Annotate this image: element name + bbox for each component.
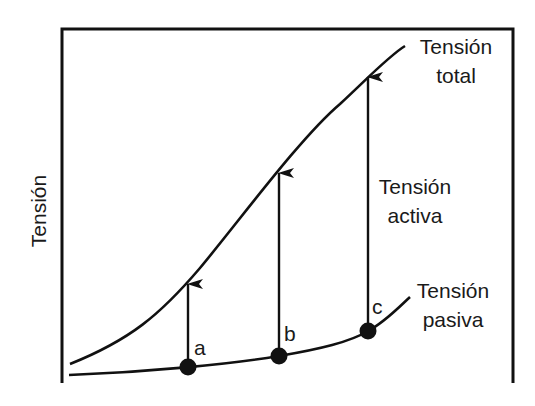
point-a-marker xyxy=(180,359,197,376)
tension-diagram: Tensión a b c Tensión total Tensión acti… xyxy=(0,0,535,406)
point-c-label: c xyxy=(372,295,383,318)
passive-tension-curve xyxy=(69,297,410,375)
total-tension-label-line1: Tensión xyxy=(420,35,492,58)
point-b-marker xyxy=(271,348,288,365)
total-tension-curve xyxy=(70,46,405,364)
active-tension-label-line2: activa xyxy=(388,204,443,227)
passive-tension-label-line2: pasiva xyxy=(423,308,484,331)
point-b-label: b xyxy=(284,322,296,345)
point-a-label: a xyxy=(194,336,206,359)
y-axis-label: Tensión xyxy=(27,175,50,247)
point-c-marker xyxy=(360,323,377,340)
active-tension-label-line1: Tensión xyxy=(379,175,451,198)
total-tension-label-line2: total xyxy=(436,64,476,87)
passive-tension-label-line1: Tensión xyxy=(417,279,489,302)
